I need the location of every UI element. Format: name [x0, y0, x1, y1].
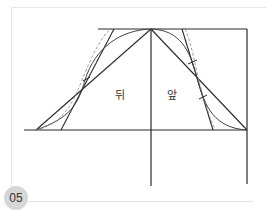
back-steep-line — [61, 29, 114, 130]
front-dashed-curve — [185, 29, 216, 130]
back-label: 뒤 — [115, 86, 125, 102]
back-diagonal-line — [36, 29, 151, 130]
pattern-diagram — [0, 0, 267, 210]
caption-divider — [28, 201, 253, 202]
back-dashed-curve — [36, 29, 111, 130]
step-number-badge: 05 — [4, 186, 28, 210]
front-label: 앞 — [167, 86, 177, 102]
